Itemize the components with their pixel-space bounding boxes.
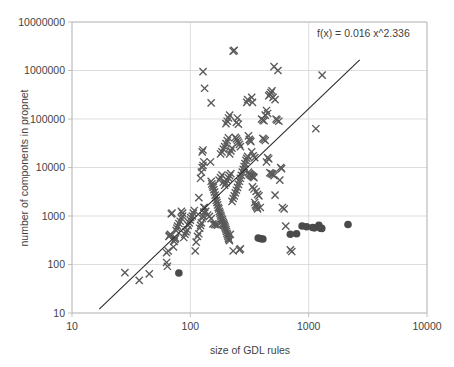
- y-tick-label: 100000: [30, 113, 65, 125]
- scatter-plot-figure: 10100100010000100000100000010000000 1010…: [0, 0, 454, 367]
- data-point-dot: [259, 235, 267, 243]
- y-tick-label: 10000000: [18, 16, 65, 28]
- y-tick-label: 10: [53, 307, 65, 319]
- x-axis-title: size of GDL rules: [210, 344, 290, 356]
- x-tick-label: 10: [66, 320, 78, 332]
- data-point-dot: [344, 221, 352, 229]
- data-point-dot: [293, 230, 301, 238]
- y-tick-label: 1000000: [24, 64, 65, 76]
- y-axis-title: number of components in propnet: [18, 89, 30, 246]
- chart-canvas: 10100100010000100000100000010000000 1010…: [0, 0, 454, 367]
- data-point-dot: [175, 269, 183, 277]
- x-tick-label: 1000: [297, 320, 321, 332]
- x-tick-label: 100: [182, 320, 200, 332]
- fit-equation-label: f(x) = 0.016 x^2.336: [317, 27, 410, 39]
- x-tick-label: 10000: [412, 320, 441, 332]
- y-tick-label: 1000: [42, 210, 66, 222]
- data-point-dot: [318, 225, 326, 233]
- y-tick-label: 10000: [36, 161, 65, 173]
- y-tick-label: 100: [47, 258, 65, 270]
